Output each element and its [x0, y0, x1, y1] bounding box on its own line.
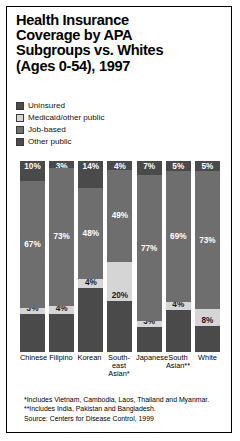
bar-value-label: 4%: [114, 162, 126, 170]
bar-value-label: 77%: [141, 244, 157, 253]
bar-segment: 14%: [78, 161, 103, 188]
x-axis-label: South-eastAsian*: [106, 354, 133, 378]
bar-segment: 5%: [195, 161, 220, 171]
chart-card: Health Insurance Coverage by APA Subgrou…: [6, 6, 232, 433]
bar-segment: 5%: [166, 161, 191, 171]
chart-footnotes: *Includes Vietnam, Cambodia, Laos, Thail…: [24, 395, 224, 423]
bar-segment: 48%: [78, 188, 103, 279]
legend-item-label: Job-based: [28, 125, 66, 134]
bar-segment: 20%: [20, 314, 45, 352]
title-line-4: (Ages 0-54), 1997: [16, 59, 221, 74]
bar-column[interactable]: 3%73%4%20%: [49, 161, 74, 352]
x-axis-label: Japanese: [136, 354, 161, 378]
bar-segment: 4%: [166, 302, 191, 311]
x-axis-label-line: Chinese: [20, 354, 45, 362]
legend-item: Other public: [16, 136, 216, 147]
x-axis-labels: ChineseFilipinoKoreanSouth-eastAsian*Jap…: [20, 354, 220, 378]
bar-value-label: 4%: [56, 306, 68, 314]
legend-swatch-icon: [16, 102, 24, 110]
legend-item-label: Other public: [28, 137, 72, 146]
legend-item-label: Medicaid/other public: [28, 113, 104, 122]
bar-segment: 7%: [137, 161, 162, 175]
bar-column[interactable]: 5%73%8%14%: [195, 161, 220, 352]
bar-column[interactable]: 4%49%20%27%: [107, 161, 132, 352]
x-axis-label-line: Asian*: [106, 370, 133, 378]
bar-segment: 3%: [137, 321, 162, 328]
x-axis-label-line: White: [195, 354, 220, 362]
legend-item: Uninsured: [16, 100, 216, 111]
title-line-2: Coverage by APA: [16, 28, 221, 43]
bar-segment: 4%: [107, 161, 132, 170]
bar-column[interactable]: 5%69%4%22%: [166, 161, 191, 352]
bar-segment: 27%: [107, 301, 132, 352]
x-axis-label: SouthAsian**: [165, 354, 192, 378]
x-axis-label: Filipino: [49, 354, 74, 378]
bar-value-label: 69%: [170, 232, 186, 241]
bar-column[interactable]: 7%77%3%13%: [137, 161, 162, 352]
legend-item: Job-based: [16, 124, 216, 135]
bar-value-label: 4%: [85, 279, 97, 287]
bar-segment: 34%: [78, 288, 103, 352]
bar-value-label: 3%: [143, 321, 155, 327]
x-axis-label: White: [195, 354, 220, 378]
bar-value-label: 10%: [24, 162, 40, 171]
bar-segment: 8%: [195, 309, 220, 325]
x-axis-label: Chinese: [20, 354, 45, 378]
bar-segment: 10%: [20, 161, 45, 181]
bar-segment: 3%: [20, 308, 45, 315]
x-axis-label-line: Asian**: [165, 362, 192, 370]
page-title: Health Insurance Coverage by APA Subgrou…: [16, 13, 221, 74]
x-axis-label-line: Japanese: [136, 354, 161, 362]
bar-segment: 73%: [49, 168, 74, 306]
bar-segment: 22%: [166, 310, 191, 352]
bar-column[interactable]: 14%48%4%34%: [78, 161, 103, 352]
title-line-1: Health Insurance: [16, 13, 221, 28]
bar-segment: 14%: [195, 326, 220, 352]
chart-legend: UninsuredMedicaid/other publicJob-basedO…: [16, 100, 216, 148]
bar-segment: 77%: [137, 175, 162, 321]
bar-value-label: 48%: [83, 229, 99, 238]
legend-item-label: Uninsured: [28, 101, 65, 110]
bar-value-label: 3%: [27, 308, 39, 314]
x-axis-label-line: Korean: [77, 354, 102, 362]
x-axis-label: Korean: [77, 354, 102, 378]
chart-plot-area: 10%67%3%20%3%73%4%20%14%48%4%34%4%49%20%…: [20, 161, 220, 352]
legend-swatch-icon: [16, 126, 24, 134]
title-line-3: Subgroups vs. Whites: [16, 43, 221, 58]
legend-swatch-icon: [16, 114, 24, 122]
bar-column[interactable]: 10%67%3%20%: [20, 161, 45, 352]
bar-segment: 13%: [137, 327, 162, 352]
bar-segment: 67%: [20, 181, 45, 308]
bar-segment: 20%: [49, 314, 74, 352]
bar-value-label: 20%: [112, 291, 128, 300]
bar-value-label: 67%: [24, 240, 40, 249]
bar-value-label: 5%: [202, 162, 214, 171]
legend-swatch-icon: [16, 138, 24, 146]
x-axis-label-line: Filipino: [49, 354, 74, 362]
bar-segment: 49%: [107, 170, 132, 263]
footnote-2: **Includes India, Pakistan and Banglades…: [24, 404, 224, 413]
footnote-1: *Includes Vietnam, Cambodia, Laos, Thail…: [24, 395, 224, 404]
bar-segment: 3%: [49, 161, 74, 168]
bar-segment: 73%: [195, 171, 220, 309]
bar-value-label: 73%: [53, 232, 69, 241]
bar-value-label: 7%: [143, 162, 155, 171]
bar-segment: 4%: [78, 279, 103, 288]
footnote-source: Source: Centers for Disease Control, 199…: [24, 414, 224, 423]
bar-segment: 4%: [49, 306, 74, 315]
bar-value-label: 8%: [202, 316, 214, 325]
bar-value-label: 4%: [172, 302, 184, 310]
bar-segment: 69%: [166, 171, 191, 301]
legend-item: Medicaid/other public: [16, 112, 216, 123]
bar-value-label: 73%: [199, 236, 215, 245]
bar-value-label: 49%: [112, 211, 128, 220]
bar-value-label: 5%: [172, 162, 184, 171]
bar-segment: 20%: [107, 262, 132, 301]
bar-value-label: 14%: [83, 162, 99, 171]
